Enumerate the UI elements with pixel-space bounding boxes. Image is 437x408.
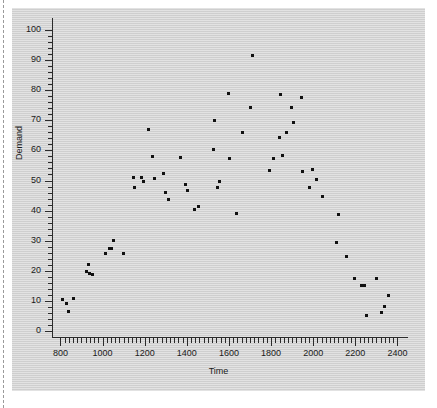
x-tick-minor [124,338,125,343]
scatter-point [380,311,383,314]
x-tick-major [397,338,398,346]
scatter-point [375,277,378,280]
x-tick-label: 1200 [135,349,155,358]
x-tick-major [271,338,272,346]
x-tick-minor [334,338,335,343]
x-tick-minor [86,338,87,343]
x-tick-minor [263,338,264,343]
y-tick-label: 10 [31,296,41,305]
scatter-point [184,183,187,186]
x-tick-minor [191,338,192,343]
scatter-point [122,252,125,255]
x-tick-minor [330,338,331,343]
scatter-point [216,186,219,189]
x-tick-minor [119,338,120,343]
x-tick-minor [326,338,327,343]
x-tick-minor [115,338,116,343]
x-tick-minor [338,338,339,343]
scatter-point [72,297,75,300]
x-tick-minor [183,338,184,343]
scatter-points-layer [52,18,408,337]
scatter-point [140,176,143,179]
scatter-point [301,170,304,173]
y-tick-label: 30 [31,236,41,245]
x-tick-minor [364,338,365,343]
scatter-point [308,186,311,189]
y-tick-label: 80 [31,85,41,94]
scatter-point [235,212,238,215]
scatter-point [112,239,115,242]
x-tick-label: 1400 [177,349,197,358]
x-tick-minor [128,338,129,343]
scatter-point [179,156,182,159]
x-tick-major [313,338,314,346]
x-tick-minor [385,338,386,343]
scatter-point [300,96,303,99]
chart-page: 0102030405060708090100 80010001200140016… [0,0,437,408]
scatter-point [153,177,156,180]
scatter-point [104,252,107,255]
scatter-point [87,263,90,266]
x-tick-label: 2000 [303,349,323,358]
scatter-point [268,169,271,172]
x-tick-minor [343,338,344,343]
x-tick-label: 2200 [345,349,365,358]
y-tick-label: 70 [31,115,41,124]
y-tick-label: 60 [31,145,41,154]
x-tick-minor [157,338,158,343]
scatter-point [197,205,200,208]
x-tick-minor [166,338,167,343]
scatter-point [290,106,293,109]
x-tick-minor [393,338,394,343]
x-tick-minor [250,338,251,343]
x-tick-minor [347,338,348,343]
x-tick-minor [212,338,213,343]
x-tick-minor [132,338,133,343]
x-tick-minor [381,338,382,343]
x-tick-minor [267,338,268,343]
x-tick-minor [98,338,99,343]
x-tick-minor [149,338,150,343]
x-tick-label: 2400 [387,349,407,358]
scatter-point [315,178,318,181]
scatter-point [186,189,189,192]
x-tick-minor [65,338,66,343]
x-tick-minor [372,338,373,343]
scatter-point [133,186,136,189]
scatter-point [213,119,216,122]
x-tick-minor [170,338,171,343]
x-tick-minor [233,338,234,343]
scatter-point [241,131,244,134]
page-margin-guide [3,0,4,408]
scatter-point [387,294,390,297]
scatter-point [212,148,215,151]
x-tick-minor [216,338,217,343]
x-tick-minor [73,338,74,343]
x-tick-minor [351,338,352,343]
scatter-point [67,310,70,313]
x-tick-minor [195,338,196,343]
x-tick-minor [162,338,163,343]
x-tick-minor [199,338,200,343]
x-tick-minor [111,338,112,343]
scatter-point [167,198,170,201]
x-tick-major [229,338,230,346]
x-tick-minor [254,338,255,343]
x-tick-label: 1600 [219,349,239,358]
scatter-point [279,93,282,96]
scatter-point [335,241,338,244]
x-tick-major [145,338,146,346]
x-tick-minor [284,338,285,343]
x-tick-minor [376,338,377,343]
x-tick-label: 1000 [93,349,113,358]
x-tick-major [355,338,356,346]
scatter-point [337,213,340,216]
x-tick-label: 1800 [261,349,281,358]
x-tick-minor [258,338,259,343]
scatter-point [363,284,366,287]
x-tick-label: 800 [53,349,68,358]
scatter-point [251,54,254,57]
x-tick-minor [225,338,226,343]
y-tick-label: 20 [31,266,41,275]
x-tick-minor [94,338,95,343]
